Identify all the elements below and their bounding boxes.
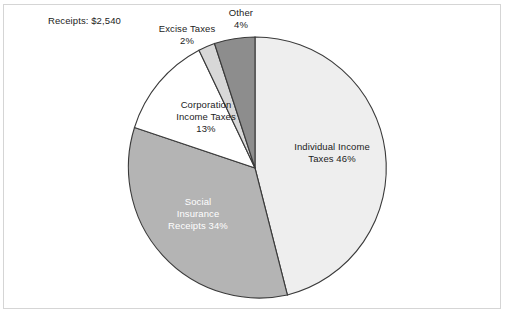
slice-label-line: Income Taxes: [158, 111, 254, 123]
receipts-total-caption: Receipts: $2,540: [48, 15, 121, 26]
slice-label-line: 13%: [158, 123, 254, 135]
slice-label-individual-income-taxes: Individual Income Taxes 46%: [276, 141, 388, 165]
slice-label-line: 4%: [213, 19, 269, 31]
slice-label-social-insurance-receipts: Social Insurance Receipts 34%: [148, 196, 248, 232]
slice-label-line: Individual Income: [276, 141, 388, 153]
slice-label-line: Other: [213, 7, 269, 19]
slice-label-line: Insurance: [148, 208, 248, 220]
slice-label-line: Taxes 46%: [276, 153, 388, 165]
slice-label-line: Social: [148, 196, 248, 208]
slice-label-line: 2%: [144, 35, 230, 47]
slice-label-corporation-income-taxes: Corporation Income Taxes 13%: [158, 99, 254, 135]
slice-label-line: Corporation: [158, 99, 254, 111]
pie-chart-figure: Receipts: $2,540 Individual Income Taxes…: [0, 0, 506, 315]
slice-label-line: Receipts 34%: [148, 220, 248, 232]
pie-chart-svg: [0, 0, 506, 315]
slice-label-other: Other 4%: [213, 7, 269, 31]
